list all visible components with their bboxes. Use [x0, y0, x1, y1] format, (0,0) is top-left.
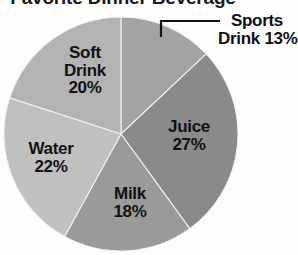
slice-label-soft-drink-line1: SoftDrink — [44, 44, 126, 79]
sports-drink-leader-line — [158, 18, 220, 38]
slice-label-juice: Juice 27% — [152, 118, 226, 153]
slice-label-water-line1: Water — [8, 140, 94, 158]
slice-label-water: Water 22% — [8, 140, 94, 175]
slice-label-milk: Milk 18% — [94, 185, 166, 220]
slice-label-soft-drink: SoftDrink 20% — [44, 44, 126, 97]
slice-label-juice-value: 27% — [152, 136, 226, 154]
chart-title: Favorite Dinner Beverage — [8, 0, 238, 9]
slice-label-juice-line1: Juice — [152, 118, 226, 136]
slice-label-milk-line1: Milk — [94, 185, 166, 203]
slice-label-milk-value: 18% — [94, 203, 166, 221]
slice-label-soft-drink-value: 20% — [44, 79, 126, 97]
slice-label-water-value: 22% — [8, 158, 94, 176]
slice-label-sports-drink-value: 13% — [264, 29, 297, 48]
slice-label-sports-drink: SportsDrink 13% — [218, 12, 296, 47]
pie-chart-figure: Favorite Dinner Beverage SoftDrink 20% W… — [0, 0, 298, 255]
